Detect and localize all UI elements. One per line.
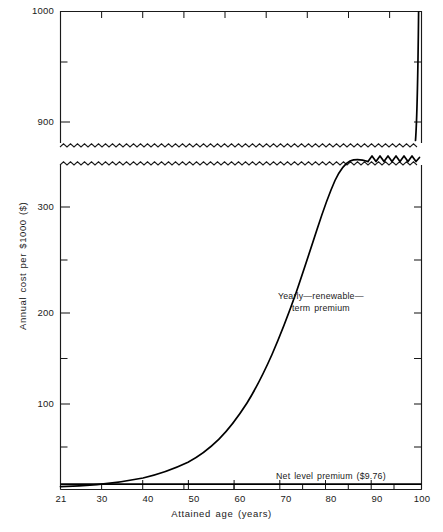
y-tick-label-100: 100 <box>8 398 54 409</box>
x-tick-label-70: 70 <box>271 493 301 504</box>
yrt-curve-plateau <box>368 156 420 162</box>
y-tick-label-900: 900 <box>8 116 54 127</box>
yrt-curve-lower <box>61 160 369 487</box>
x-axis-title: Attained age (years) <box>0 508 443 519</box>
axis-break-lower-zigzag <box>60 162 417 165</box>
x-tick-label-60: 60 <box>225 493 255 504</box>
axis-break-upper-zigzag <box>60 144 417 147</box>
y-axis-ticks-left <box>61 12 71 448</box>
axis-break-zigzag <box>60 144 417 165</box>
annotation-yrt-line1: Yearly—renewable— <box>278 291 364 303</box>
annotation-yrt-line2: term premium <box>278 303 364 315</box>
chart-canvas <box>0 0 443 532</box>
x-axis-ticks-top <box>102 12 390 19</box>
y-tick-label-300: 300 <box>8 201 54 212</box>
x-tick-label-30: 30 <box>87 493 117 504</box>
x-tick-label-90: 90 <box>362 493 392 504</box>
x-tick-label-50: 50 <box>179 493 209 504</box>
axis-frame <box>61 11 422 490</box>
y-axis-ticks-right <box>414 62 422 447</box>
x-tick-label-80: 80 <box>316 493 346 504</box>
x-tick-label-21: 21 <box>46 493 76 504</box>
annotation-yearly-renewable-term: Yearly—renewable— term premium <box>278 291 364 314</box>
y-tick-label-200: 200 <box>8 307 54 318</box>
yrt-curve-terminal-spike <box>416 12 419 141</box>
y-axis-title: Annual cost per $1000 ($) <box>17 202 28 330</box>
chart-figure: 1000 900 300 200 100 21 30 40 50 60 70 8… <box>0 0 443 532</box>
y-tick-label-1000: 1000 <box>8 5 54 16</box>
annotation-net-level-premium: Net level premium ($9.76) <box>276 471 386 483</box>
series-yearly-renewable-term <box>61 12 420 487</box>
x-tick-label-40: 40 <box>133 493 163 504</box>
x-tick-label-100: 100 <box>407 493 437 504</box>
